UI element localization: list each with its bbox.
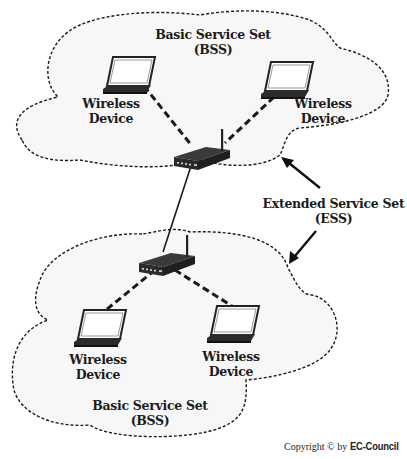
ess-label: Extended Service Set (ESS) [260,196,407,226]
device-label: Wireless Device [198,349,264,379]
device-label: Wireless Device [78,96,144,126]
diagram-canvas [0,0,407,459]
device-label: Wireless Device [290,96,356,126]
bottom-bss-label: Basic Service Set (BSS) [85,398,215,428]
brand-name: EC-Council [350,440,399,452]
device-label: Wireless Device [65,352,131,382]
copyright-notice: Copyright © by EC-Council [284,440,407,452]
arrow-icon [289,231,316,264]
ess-diagram: Basic Service Set (BSS) Wireless Device … [0,0,407,459]
top-bss-label: Basic Service Set (BSS) [148,27,278,57]
arrow-icon [281,157,320,188]
